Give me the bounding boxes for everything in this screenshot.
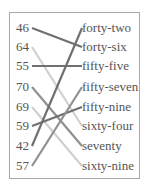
left-item: 46 xyxy=(16,21,29,35)
right-item: sixty-nine xyxy=(82,159,134,173)
left-item: 69 xyxy=(16,100,29,114)
left-item: 64 xyxy=(16,40,29,54)
left-item: 57 xyxy=(16,159,29,173)
left-item: 42 xyxy=(16,139,29,153)
right-item: fifty-nine xyxy=(82,100,131,114)
right-item: seventy xyxy=(82,139,122,153)
left-item: 59 xyxy=(16,119,29,133)
right-item: fifty-five xyxy=(82,59,129,73)
right-item: fifty-seven xyxy=(82,80,138,94)
right-item: forty-six xyxy=(82,40,127,54)
right-item: forty-two xyxy=(82,21,131,35)
left-item: 70 xyxy=(16,80,29,94)
right-item: sixty-four xyxy=(82,119,133,133)
left-item: 55 xyxy=(16,59,29,73)
